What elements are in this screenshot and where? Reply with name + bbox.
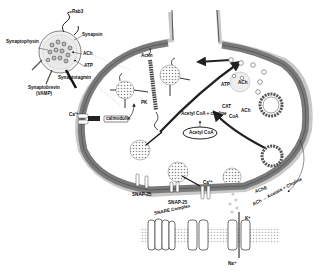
label-snap25-a: SNAP-25 xyxy=(132,193,151,198)
label-actin: Actin xyxy=(141,54,152,59)
label-synapsin: Synapsin xyxy=(82,33,102,38)
label-ca-left: Ca²⁺ xyxy=(69,113,79,118)
label-k-ion: K⁺ xyxy=(245,217,251,222)
label-synaptobrevin: Synaptobrevin xyxy=(28,86,60,91)
synapse-diagram xyxy=(0,0,321,275)
label-ach-arrow: ACh xyxy=(241,109,250,114)
label-synthesis: Acetyl CoA + choline xyxy=(181,112,227,117)
nicotinic-receptor-1 xyxy=(148,219,175,250)
label-ach-right: ACh xyxy=(238,81,247,86)
label-rab3: Rab3 xyxy=(72,10,83,15)
label-acetyl-coa: Acetyl CoA xyxy=(189,131,214,136)
label-atp: ATP xyxy=(84,64,93,69)
postsynaptic-membrane xyxy=(140,212,280,258)
label-atp-right: ATP xyxy=(221,83,230,88)
label-calmodulin: calmodulin xyxy=(106,117,130,122)
label-synaptotagmin: Synaptotagmin xyxy=(58,76,91,81)
label-pk: PK xyxy=(141,101,147,106)
label-na-ion: Na⁺ xyxy=(228,262,237,267)
label-ach: ACh xyxy=(83,52,92,57)
label-ca-bottom: Ca²⁺ xyxy=(203,181,213,186)
label-cat: CAT xyxy=(222,105,231,110)
label-vamp: (VAMP) xyxy=(36,92,52,97)
label-synaptophysin: Synaptophysin xyxy=(6,40,39,45)
label-coa: CoA xyxy=(229,115,238,120)
